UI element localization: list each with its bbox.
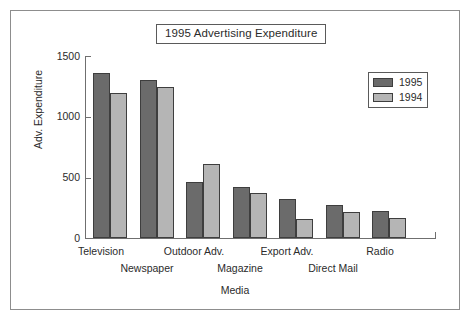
bar-1995-direct-mail [326, 205, 343, 238]
bar-1994-export-adv [296, 219, 313, 238]
bar-1995-export-adv [279, 199, 296, 238]
y-tick-label: 1000 [38, 111, 80, 122]
bar-1994-newspaper [157, 87, 174, 238]
bar-1995-television [93, 73, 110, 238]
category-label-radio: Radio [334, 245, 426, 257]
y-tick [85, 238, 91, 239]
chart-title: 1995 Advertising Expenditure [156, 24, 326, 44]
bar-1994-radio [389, 218, 406, 238]
category-label-magazine: Magazine [194, 262, 286, 274]
plot-area [85, 57, 436, 238]
category-label-newspaper: Newspaper [101, 262, 193, 274]
y-tick-label: 1500 [38, 51, 80, 62]
bar-1995-magazine [233, 187, 250, 238]
category-label-direct-mail: Direct Mail [287, 262, 379, 274]
y-axis-title: Adv. Expenditure [33, 50, 44, 170]
bar-1994-television [110, 93, 127, 238]
x-axis-line [85, 238, 436, 239]
category-label-television: Television [55, 245, 147, 257]
bar-1995-outdoor-adv [186, 182, 203, 238]
bar-1994-outdoor-adv [203, 164, 220, 238]
category-label-outdoor-adv: Outdoor Adv. [148, 245, 240, 257]
bar-1994-direct-mail [343, 212, 360, 238]
bar-1994-magazine [250, 193, 267, 238]
chart-title-text: 1995 Advertising Expenditure [165, 27, 317, 39]
bar-1995-radio [372, 211, 389, 238]
y-tick-label: 0 [38, 233, 80, 244]
y-tick-label: 500 [38, 172, 80, 183]
bar-1995-newspaper [140, 80, 157, 238]
category-label-export-adv: Export Adv. [241, 245, 333, 257]
x-axis-title: Media [175, 285, 295, 296]
